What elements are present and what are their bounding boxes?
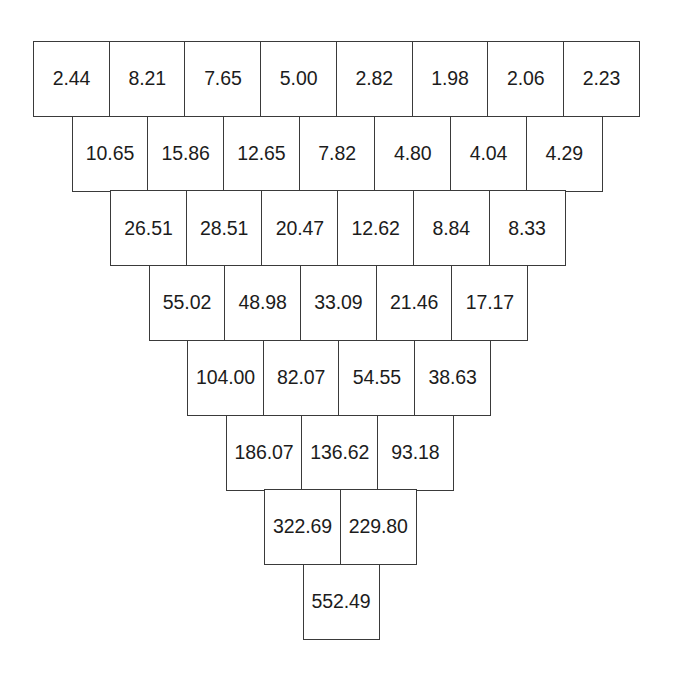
triangle-cell: 21.46 [376,265,453,341]
triangle-cell: 7.82 [299,116,376,192]
triangle-row-2: 10.6515.8612.657.824.804.044.29 [72,116,602,192]
run-off-triangle-diagram: 2.448.217.655.002.821.982.062.2310.6515.… [0,0,683,696]
triangle-cell: 322.69 [264,489,341,565]
triangle-cell: 2.06 [487,41,564,117]
triangle-cell: 2.44 [33,41,110,117]
triangle-cell: 2.23 [563,41,640,117]
triangle-cell: 93.18 [377,415,454,491]
triangle-cell: 4.29 [526,116,603,192]
triangle-cell: 4.04 [450,116,527,192]
triangle-cell: 1.98 [412,41,489,117]
triangle-row-1: 2.448.217.655.002.821.982.062.23 [33,41,639,117]
triangle-cell: 15.86 [147,116,224,192]
triangle-cell: 552.49 [303,564,380,640]
triangle-cell: 8.21 [109,41,186,117]
triangle-cell: 5.00 [260,41,337,117]
triangle-cell: 8.84 [413,190,490,266]
triangle-cell: 8.33 [489,190,566,266]
triangle-cell: 4.80 [374,116,451,192]
triangle-row-8: 552.49 [303,564,379,640]
triangle-cell: 229.80 [340,489,417,565]
triangle-cell: 33.09 [300,265,377,341]
triangle-cell: 7.65 [184,41,261,117]
triangle-row-5: 104.0082.0754.5538.63 [187,340,490,416]
triangle-cell: 38.63 [414,340,491,416]
triangle-cell: 82.07 [263,340,340,416]
triangle-row-6: 186.07136.6293.18 [226,415,453,491]
triangle-cell: 12.65 [223,116,300,192]
triangle-cell: 28.51 [186,190,263,266]
triangle-cell: 20.47 [261,190,338,266]
triangle-row-7: 322.69229.80 [264,489,415,565]
triangle-cell: 2.82 [336,41,413,117]
triangle-row-3: 26.5128.5120.4712.628.848.33 [110,190,564,266]
triangle-row-4: 55.0248.9833.0921.4617.17 [149,265,528,341]
triangle-cell: 26.51 [110,190,187,266]
triangle-cell: 186.07 [226,415,303,491]
triangle-cell: 54.55 [338,340,415,416]
triangle-cell: 17.17 [451,265,528,341]
triangle-cell: 136.62 [301,415,378,491]
triangle-cell: 12.62 [337,190,414,266]
triangle-cell: 48.98 [224,265,301,341]
triangle-cell: 10.65 [72,116,149,192]
triangle-cell: 55.02 [149,265,226,341]
triangle-cell: 104.00 [187,340,264,416]
